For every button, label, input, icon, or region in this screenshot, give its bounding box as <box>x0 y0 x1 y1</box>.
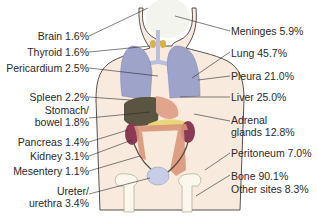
label-bone: Bone 90.1% <box>231 170 288 182</box>
label-brain: Brain 1.6% <box>38 30 89 42</box>
thyroid-shape <box>150 40 156 48</box>
label-lung: Lung 45.7% <box>231 47 287 59</box>
label-pleura: Pleura 21.0% <box>231 70 294 82</box>
label-pancreas: Pancreas 1.4% <box>18 136 89 148</box>
label-mesentery: Mesentery 1.1% <box>13 165 89 177</box>
label-ureter-2: urethra 3.4% <box>29 197 89 209</box>
label-meninges: Meninges 5.9% <box>231 25 303 37</box>
label-stomach-bowel-2: bowel 1.8% <box>35 116 89 128</box>
label-pericardium: Pericardium 2.5% <box>6 62 89 74</box>
label-adrenal-1: Adrenal <box>231 114 267 126</box>
head-neck <box>146 0 190 38</box>
thyroid-shape <box>160 40 166 48</box>
label-adrenal-2: glands 12.8% <box>231 126 295 138</box>
label-liver: Liver 25.0% <box>231 91 286 103</box>
label-ureter-1: Ureter/ <box>57 185 89 197</box>
label-spleen: Spleen 2.2% <box>29 91 89 103</box>
label-peritoneum: Peritoneum 7.0% <box>231 147 312 159</box>
label-kidney: Kidney 3.1% <box>30 150 89 162</box>
bladder <box>147 167 169 185</box>
label-other-sites: Other sites 8.3% <box>231 183 309 195</box>
label-stomach-bowel-1: Stomach/ <box>45 104 89 116</box>
label-thyroid: Thyroid 1.6% <box>27 46 89 58</box>
